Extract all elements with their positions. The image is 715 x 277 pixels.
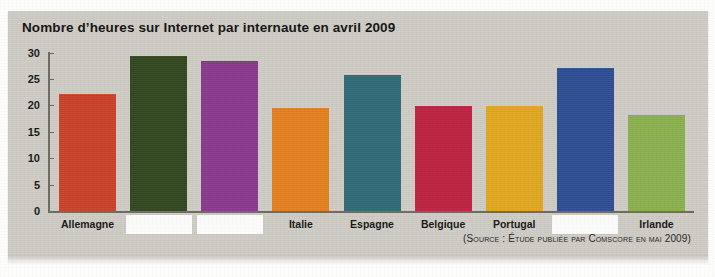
bar-texture bbox=[59, 94, 116, 211]
y-axis-tick-mark bbox=[48, 211, 54, 212]
bar-texture bbox=[628, 115, 685, 211]
x-axis-category-label: Portugal bbox=[493, 218, 536, 230]
source-note: (Source : Étude publiée par Comscore en … bbox=[463, 233, 691, 244]
x-axis-category-label: Belgique bbox=[421, 218, 465, 230]
bar-texture bbox=[272, 108, 329, 211]
bar-texture bbox=[557, 68, 614, 211]
x-axis-category-label: Irlande bbox=[639, 218, 673, 230]
bar-texture bbox=[486, 106, 543, 211]
x-axis-category-label: Espagne bbox=[350, 218, 394, 230]
x-axis-category-label: Allemagne bbox=[61, 218, 114, 230]
y-axis-tick-label: 20 bbox=[14, 99, 40, 111]
y-axis-tick-label: 5 bbox=[14, 179, 40, 191]
y-axis-tick-label: 0 bbox=[14, 205, 40, 217]
chart-title: Nombre d’heures sur Internet par interna… bbox=[22, 20, 395, 35]
bar-texture bbox=[415, 106, 472, 211]
bar bbox=[272, 108, 329, 211]
bar bbox=[201, 61, 258, 211]
y-axis-tick-label: 25 bbox=[14, 73, 40, 85]
y-axis-tick-mark bbox=[48, 185, 54, 186]
bar-texture bbox=[201, 61, 258, 211]
bar bbox=[628, 115, 685, 211]
bar-texture bbox=[344, 75, 401, 211]
y-axis-tick-label: 10 bbox=[14, 152, 40, 164]
x-axis-category-label: Italie bbox=[289, 218, 313, 230]
bar bbox=[415, 106, 472, 211]
y-axis-tick-mark bbox=[48, 105, 54, 106]
bar bbox=[59, 94, 116, 211]
redacted-label-box bbox=[197, 215, 263, 234]
x-axis-line bbox=[48, 211, 694, 213]
bar bbox=[557, 68, 614, 211]
bar bbox=[486, 106, 543, 211]
redacted-label-box bbox=[552, 215, 618, 234]
bar bbox=[130, 56, 187, 211]
y-axis-tick-label: 15 bbox=[14, 126, 40, 138]
y-axis-tick-mark bbox=[48, 158, 54, 159]
y-axis-tick-label: 30 bbox=[14, 47, 40, 59]
y-axis-tick-mark bbox=[48, 79, 54, 80]
y-axis-tick-mark bbox=[48, 132, 54, 133]
page-background: Nombre d’heures sur Internet par interna… bbox=[0, 0, 715, 277]
redacted-label-box bbox=[126, 215, 192, 234]
y-axis-tick-mark bbox=[48, 53, 54, 54]
bar bbox=[344, 75, 401, 211]
bar-texture bbox=[130, 56, 187, 211]
